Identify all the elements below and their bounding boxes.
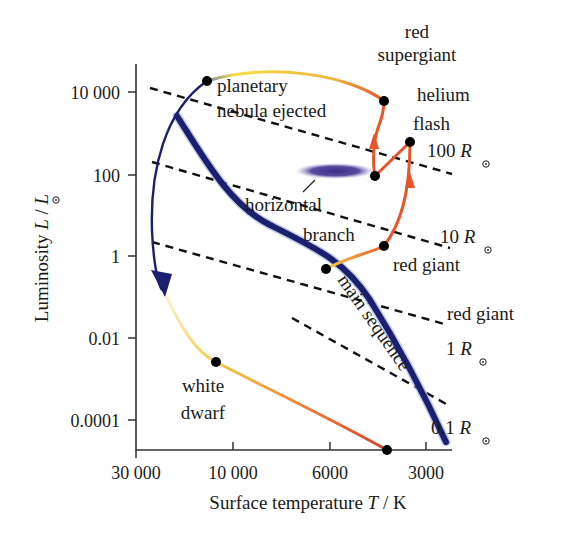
x-tick-10000: 10 000 bbox=[208, 463, 258, 483]
label-white-dwarf-1: white bbox=[182, 375, 224, 396]
label-r10: 10 R bbox=[440, 226, 476, 247]
track-helium-flash bbox=[375, 142, 410, 176]
svg-text:Luminosity L / L: Luminosity L / L bbox=[31, 194, 52, 322]
label-horizontal-2: branch bbox=[303, 224, 355, 245]
y-tick-10000: 10 000 bbox=[71, 83, 121, 103]
point-helium-flash bbox=[405, 137, 415, 147]
x-tick-3000: 3000 bbox=[408, 463, 444, 483]
x-tick-labels: 30 000 10 000 6000 3000 bbox=[111, 463, 444, 483]
label-main-sequence: main sequence bbox=[334, 270, 416, 374]
track-white-dwarf-cooling bbox=[166, 296, 387, 450]
label-r100: 100 R bbox=[427, 140, 472, 161]
label-r1: 1 R bbox=[446, 338, 472, 359]
point-cool-white-dwarf bbox=[382, 445, 392, 455]
label-planetary-1: planetary bbox=[217, 75, 288, 96]
y-tick-100: 100 bbox=[93, 166, 120, 186]
label-white-dwarf-2: dwarf bbox=[181, 402, 226, 423]
hr-diagram: 10 000 100 1 0.01 0.0001 30 000 10 000 6… bbox=[0, 0, 566, 554]
point-planetary-nebula bbox=[202, 76, 212, 86]
label-red-supergiant-1: red bbox=[405, 21, 430, 42]
point-ms-turnoff bbox=[321, 264, 331, 274]
y-tick-labels: 10 000 100 1 0.01 0.0001 bbox=[71, 83, 121, 431]
label-helium-flash-1: helium bbox=[417, 84, 470, 105]
point-red-supergiant bbox=[379, 96, 389, 106]
x-tick-6000: 6000 bbox=[312, 463, 348, 483]
arrow-down-icon bbox=[151, 270, 172, 297]
y-tick-0.0001: 0.0001 bbox=[71, 411, 121, 431]
y-tick-1: 1 bbox=[111, 247, 120, 267]
y-axis-label: Luminosity L / L bbox=[31, 194, 59, 322]
horizontal-branch-blob bbox=[295, 163, 375, 179]
label-planetary-2: nebula ejected bbox=[217, 100, 327, 121]
label-red-giant-lower: red giant bbox=[447, 303, 515, 324]
label-red-supergiant-2: supergiant bbox=[378, 44, 458, 65]
point-horizontal-branch bbox=[370, 171, 380, 181]
point-white-dwarf bbox=[211, 357, 221, 367]
horizontal-branch-pointer bbox=[303, 180, 315, 192]
x-tick-30000: 30 000 bbox=[111, 463, 161, 483]
point-red-giant bbox=[379, 241, 389, 251]
label-r01: 0.1 R bbox=[431, 417, 472, 438]
y-tick-0.01: 0.01 bbox=[89, 329, 121, 349]
label-red-giant-upper: red giant bbox=[393, 254, 461, 275]
annotations: red supergiant helium flash planetary ne… bbox=[181, 21, 515, 423]
x-axis-label: Surface temperature T / K bbox=[209, 492, 407, 513]
label-horizontal-1: horizontal bbox=[245, 194, 322, 215]
label-helium-flash-2: flash bbox=[413, 113, 450, 134]
